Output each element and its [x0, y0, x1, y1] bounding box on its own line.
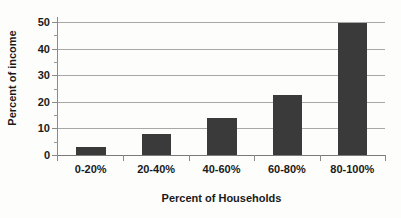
- gridline-40: [58, 49, 385, 50]
- y-axis-tick-labels: 0 10 20 30 40 50: [24, 22, 54, 155]
- y-tick-minor-15: [54, 115, 58, 116]
- x-tick-boundary: [123, 155, 124, 161]
- y-tick-label: 10: [38, 122, 50, 134]
- x-tick-label: 40-60%: [203, 163, 241, 175]
- x-tick-label: 20-40%: [137, 163, 175, 175]
- y-tick-label: 20: [38, 96, 50, 108]
- bar: [207, 118, 236, 155]
- x-tick-boundary: [189, 155, 190, 161]
- y-tick-major-30: [52, 75, 58, 76]
- x-axis-line: [57, 155, 385, 156]
- y-tick-label: 50: [38, 16, 50, 28]
- y-axis-title-label: Percent of income: [6, 30, 18, 125]
- y-tick-major-50: [52, 22, 58, 23]
- x-axis-tick-labels: 0-20% 20-40% 40-60% 60-80% 80-100%: [58, 163, 385, 181]
- x-axis-title: Percent of Households: [58, 192, 385, 204]
- y-tick-minor-45: [54, 35, 58, 36]
- x-tick-label: 0-20%: [75, 163, 107, 175]
- x-tick-boundary: [254, 155, 255, 161]
- bar: [142, 134, 171, 155]
- plot-area: [58, 22, 385, 155]
- bar: [76, 147, 105, 155]
- bar-chart-figure: Percent of income 0 10 20 30 40 50: [0, 0, 401, 218]
- x-tick-boundary: [320, 155, 321, 161]
- y-axis-title: Percent of income: [0, 0, 24, 155]
- y-tick-label: 40: [38, 43, 50, 55]
- y-tick-minor-35: [54, 62, 58, 63]
- y-tick-label: 30: [38, 69, 50, 81]
- x-tick-label: 60-80%: [268, 163, 306, 175]
- y-tick-minor-25: [54, 89, 58, 90]
- y-axis-line: [57, 17, 58, 155]
- bar: [273, 95, 302, 155]
- gridline-20: [58, 102, 385, 103]
- x-tick-boundary: [385, 155, 386, 161]
- x-tick-label: 80-100%: [330, 163, 374, 175]
- x-tick-boundary: [57, 155, 58, 161]
- gridline-50: [58, 22, 385, 23]
- y-tick-major-20: [52, 102, 58, 103]
- y-tick-minor-5: [54, 142, 58, 143]
- gridline-30: [58, 75, 385, 76]
- y-tick-major-40: [52, 49, 58, 50]
- bar: [338, 23, 367, 155]
- y-tick-label: 0: [44, 149, 50, 161]
- y-tick-major-10: [52, 128, 58, 129]
